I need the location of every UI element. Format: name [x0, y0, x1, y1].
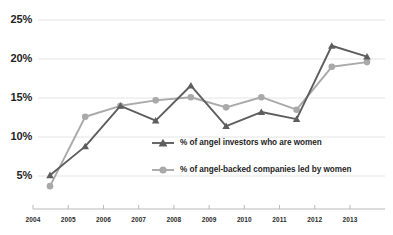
- data-point-marker: [47, 183, 54, 190]
- x-axis-tick-label: 2009: [191, 216, 227, 223]
- x-axis-tick-label: 2013: [332, 216, 368, 223]
- x-axis-tick-label: 2005: [50, 216, 86, 223]
- data-point-marker: [293, 106, 300, 113]
- y-axis-tick-label: 25%: [0, 13, 32, 25]
- series-line: [50, 46, 367, 175]
- chart-container: 25%20%15%10%5% 2004200520062007200820092…: [0, 0, 393, 235]
- x-axis-tick-label: 2010: [226, 216, 262, 223]
- data-point-marker: [328, 64, 335, 71]
- data-point-marker: [188, 94, 195, 101]
- axis-lines-group: [33, 205, 385, 209]
- data-point-marker: [152, 97, 159, 104]
- x-axis-tick-label: 2008: [156, 216, 192, 223]
- legend-markers-group: [152, 139, 174, 174]
- data-point-marker: [328, 42, 336, 49]
- y-axis-tick-label: 20%: [0, 52, 32, 64]
- y-axis-tick-label: 5%: [0, 169, 32, 181]
- line-chart-canvas: [0, 0, 393, 235]
- data-point-marker: [364, 59, 371, 66]
- data-point-marker: [187, 82, 195, 89]
- data-point-marker: [223, 104, 230, 111]
- x-axis-tick-label: 2011: [262, 216, 298, 223]
- data-point-marker: [258, 94, 265, 101]
- legend-item-label: % of angel-backed companies led by women: [180, 165, 351, 174]
- y-axis-tick-label: 10%: [0, 130, 32, 142]
- x-axis-tick-label: 2004: [15, 216, 51, 223]
- circle-marker-icon: [159, 166, 166, 173]
- data-point-marker: [82, 113, 89, 120]
- gridlines-group: [38, 20, 385, 176]
- x-axis-tick-label: 2007: [121, 216, 157, 223]
- legend-item-label: % of angel investors who are women: [180, 138, 322, 147]
- y-axis-tick-label: 15%: [0, 91, 32, 103]
- x-axis-tick-label: 2006: [85, 216, 121, 223]
- x-axis-tick-label: 2012: [297, 216, 333, 223]
